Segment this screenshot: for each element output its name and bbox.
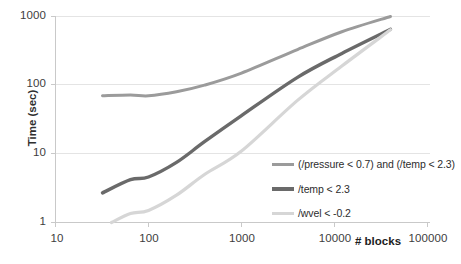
y-tick-label-1: 1: [0, 215, 46, 227]
y-tick-label-1000: 1000: [0, 9, 46, 21]
legend-swatch-pressure-and-temp: [272, 163, 294, 166]
legend-label-wvel: /wvel < -0.2: [298, 207, 351, 219]
legend-label-pressure-and-temp: (/pressure < 0.7) and (/temp < 2.3): [298, 158, 455, 170]
x-tick-label-1000: 1000: [222, 232, 262, 244]
x-tick-label-100000: 100000: [406, 232, 450, 244]
x-tick-label-10000: 10000: [315, 232, 355, 244]
x-tick-label-100: 100: [129, 232, 169, 244]
axis-lines: [55, 16, 430, 223]
y-axis-title: Time (sec): [26, 78, 38, 158]
y-tick-label-100: 100: [0, 77, 46, 89]
x-tick-label-10: 10: [37, 232, 77, 244]
y-tick-label-10: 10: [0, 146, 46, 158]
legend-swatch-wvel: [272, 212, 294, 215]
legend-item-pressure-and-temp[interactable]: (/pressure < 0.7) and (/temp < 2.3): [272, 158, 455, 170]
legend-item-temp[interactable]: /temp < 2.3: [272, 183, 350, 195]
legend-label-temp: /temp < 2.3: [298, 183, 350, 195]
legend-item-wvel[interactable]: /wvel < -0.2: [272, 207, 351, 219]
line-chart: 1000 100 10 1 10 100 1000 10000 100000 T…: [0, 0, 461, 264]
legend-swatch-temp: [272, 187, 294, 191]
x-axis-title: # blocks: [355, 235, 401, 247]
plot-area: [0, 0, 461, 264]
